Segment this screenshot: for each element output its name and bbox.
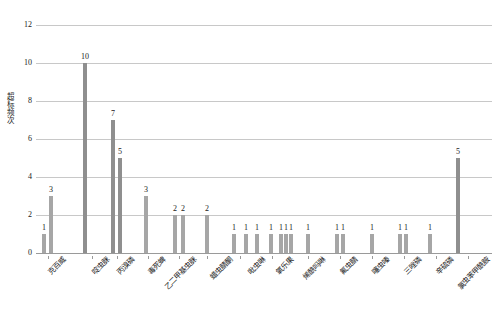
- bar: [284, 234, 288, 253]
- bar: [144, 196, 148, 253]
- x-axis-label: 氧乐果: [275, 256, 296, 277]
- y-tick-4: 4: [6, 173, 32, 181]
- x-axis-label: 三唑磷: [403, 256, 424, 277]
- x-axis-labels: 克百威啶虫脒丙溴磷毒死蜱乙二甲基虫脒蜡虫腈酮吡虫啉氧乐果烯酰吗啉氟虫腈噻虫嗪三唑…: [36, 256, 492, 320]
- bar: [173, 215, 177, 253]
- bar: [42, 234, 46, 253]
- bar-value-label: 1: [244, 224, 248, 232]
- y-tick-0: 0: [6, 249, 32, 257]
- x-tick-mark: [272, 256, 273, 259]
- x-axis-label: 克百威: [47, 256, 68, 277]
- x-tick-mark: [179, 256, 180, 259]
- bar: [83, 63, 87, 253]
- bar: [205, 215, 209, 253]
- bar-value-label: 1: [232, 224, 236, 232]
- bar: [111, 120, 115, 253]
- bar-value-label: 1: [289, 224, 293, 232]
- x-tick-mark: [240, 256, 241, 259]
- gridline-12: [36, 25, 492, 26]
- bar-value-label: 5: [456, 148, 460, 156]
- bar-value-label: 1: [42, 224, 46, 232]
- gridline-8: [36, 101, 492, 102]
- bar-value-label: 1: [335, 224, 339, 232]
- x-tick-mark: [148, 256, 149, 259]
- gridline-2: [36, 215, 492, 216]
- bar-value-label: 1: [404, 224, 408, 232]
- x-tick-mark: [340, 256, 341, 259]
- bar-value-label: 7: [111, 110, 115, 118]
- bar: [181, 215, 185, 253]
- bar-value-label: 2: [205, 205, 209, 213]
- x-tick-mark: [92, 256, 93, 259]
- bar: [279, 234, 283, 253]
- gridline-6: [36, 139, 492, 140]
- bar: [118, 158, 122, 253]
- y-tick-10: 10: [6, 59, 32, 67]
- x-axis-line: [36, 253, 492, 254]
- x-axis-label: 烯酰吗啉: [302, 256, 328, 282]
- y-axis-tick-labels: 024681012: [0, 25, 32, 253]
- bar: [49, 196, 53, 253]
- bar-value-label: 1: [398, 224, 402, 232]
- x-axis-label: 噻虫嗪: [371, 256, 392, 277]
- x-tick-mark: [404, 256, 405, 259]
- x-axis-label: 毒死蜱: [147, 256, 168, 277]
- bar: [404, 234, 408, 253]
- plot-area: 1310753222111111111111115: [36, 25, 492, 253]
- x-axis-label: 吡虫啉: [247, 256, 268, 277]
- bar: [289, 234, 293, 253]
- bar-value-label: 1: [255, 224, 259, 232]
- x-axis-label: 蜡虫腈酮: [209, 256, 235, 282]
- bar-value-label: 1: [279, 224, 283, 232]
- x-axis-label: 氟虫腈: [339, 256, 360, 277]
- bar: [370, 234, 374, 253]
- bar: [244, 234, 248, 253]
- bar-value-label: 1: [341, 224, 345, 232]
- bar-value-label: 3: [144, 186, 148, 194]
- gridline-4: [36, 177, 492, 178]
- bar: [335, 234, 339, 253]
- x-axis-label: 氯虫苯甲酰胺: [456, 256, 492, 292]
- bar: [232, 234, 236, 253]
- bar: [428, 234, 432, 253]
- x-axis-label: 啶虫脒: [91, 256, 112, 277]
- x-tick-mark: [308, 256, 309, 259]
- bar: [306, 234, 310, 253]
- x-axis-label: 丙溴磷: [116, 256, 137, 277]
- bar-value-label: 1: [306, 224, 310, 232]
- x-tick-mark: [207, 256, 208, 259]
- y-tick-12: 12: [6, 21, 32, 29]
- bar: [398, 234, 402, 253]
- x-tick-mark: [468, 256, 469, 259]
- bar-value-label: 1: [370, 224, 374, 232]
- y-tick-8: 8: [6, 97, 32, 105]
- bar-value-label: 2: [181, 205, 185, 213]
- bar-chart: 超标频次 024681012 1310753222111111111111115…: [0, 0, 504, 320]
- bar-value-label: 5: [118, 148, 122, 156]
- gridline-10: [36, 63, 492, 64]
- x-tick-mark: [48, 256, 49, 259]
- bar: [456, 158, 460, 253]
- x-tick-mark: [436, 256, 437, 259]
- x-tick-mark: [372, 256, 373, 259]
- bar-value-label: 2: [173, 205, 177, 213]
- bar: [269, 234, 273, 253]
- bar-value-label: 10: [81, 53, 89, 61]
- x-tick-mark: [117, 256, 118, 259]
- x-axis-label: 乙二甲基虫脒: [163, 256, 199, 292]
- y-tick-2: 2: [6, 211, 32, 219]
- y-tick-6: 6: [6, 135, 32, 143]
- bar-value-label: 3: [49, 186, 53, 194]
- bar: [341, 234, 345, 253]
- bar-value-label: 1: [269, 224, 273, 232]
- x-axis-label: 辛硫磷: [435, 256, 456, 277]
- bar-value-label: 1: [284, 224, 288, 232]
- bar-value-label: 1: [428, 224, 432, 232]
- bar: [255, 234, 259, 253]
